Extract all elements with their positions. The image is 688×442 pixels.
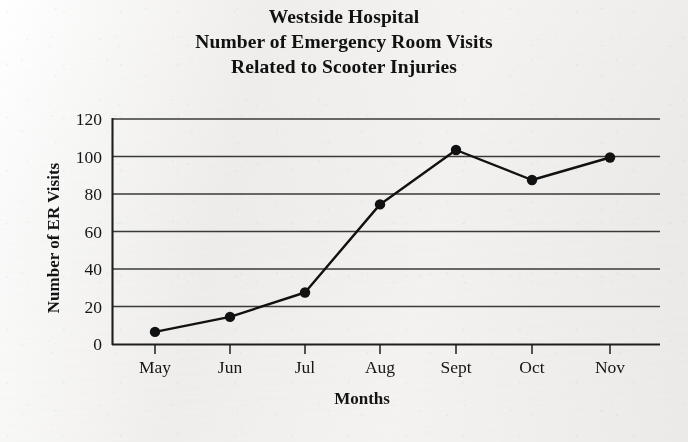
data-point-nov bbox=[605, 152, 615, 162]
data-point-aug bbox=[375, 199, 385, 209]
chart-title: Westside Hospital Number of Emergency Ro… bbox=[0, 4, 688, 79]
data-point-oct bbox=[527, 175, 537, 185]
data-markers bbox=[150, 145, 615, 337]
data-point-sept bbox=[451, 145, 461, 155]
data-point-jul bbox=[300, 287, 310, 297]
chart-title-line-2: Number of Emergency Room Visits bbox=[0, 29, 688, 54]
data-point-may bbox=[150, 327, 160, 337]
data-point-jun bbox=[225, 312, 235, 322]
x-tick-marks bbox=[155, 345, 610, 354]
chart-title-line-1: Westside Hospital bbox=[0, 4, 688, 29]
data-line-er-visits bbox=[155, 150, 610, 332]
chart-title-line-3: Related to Scooter Injuries bbox=[0, 54, 688, 79]
scanned-page: Westside Hospital Number of Emergency Ro… bbox=[0, 0, 688, 442]
gridlines bbox=[112, 119, 660, 307]
